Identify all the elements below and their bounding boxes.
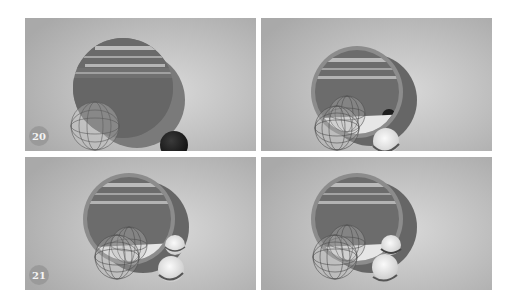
render-scene xyxy=(25,157,256,290)
frame-panel-top-right xyxy=(261,18,492,151)
render-scene xyxy=(25,18,256,151)
glass-sphere xyxy=(165,235,185,255)
wireframe-sphere xyxy=(71,102,119,150)
render-scene xyxy=(261,18,492,151)
frame-panel-21: 21 xyxy=(25,157,256,290)
frame-label-badge: 20 xyxy=(29,126,49,146)
frame-panel-20: 20 xyxy=(25,18,256,151)
render-scene xyxy=(261,157,492,290)
frame-panel-bottom-right xyxy=(261,157,492,290)
frame-label-badge: 21 xyxy=(29,265,49,285)
